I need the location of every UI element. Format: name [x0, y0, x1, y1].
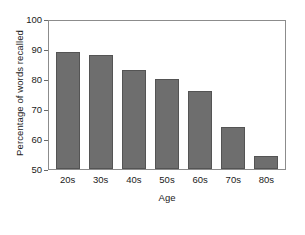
bar	[89, 55, 113, 169]
bar	[221, 127, 245, 169]
y-axis-tick-label: 70	[16, 105, 42, 115]
bar-slot	[249, 21, 282, 169]
x-axis-tick-label: 60s	[184, 174, 217, 188]
x-axis-tick-labels: 20s30s40s50s60s70s80s	[48, 174, 286, 188]
bar	[122, 70, 146, 169]
x-axis-title: Age	[48, 192, 286, 203]
y-axis-tick-labels: 5060708090100	[0, 0, 42, 235]
x-axis-tick-label: 40s	[117, 174, 150, 188]
plot-area	[48, 20, 286, 170]
y-axis-tick-mark	[44, 170, 48, 171]
bar-slot	[183, 21, 216, 169]
bar-slot	[151, 21, 184, 169]
y-axis-tick-label: 80	[16, 75, 42, 85]
bar-slot	[52, 21, 85, 169]
bar-series	[49, 21, 285, 169]
bar-slot	[216, 21, 249, 169]
y-axis-tick-label: 50	[16, 165, 42, 175]
bar-slot	[118, 21, 151, 169]
y-axis-tick-label: 90	[16, 45, 42, 55]
bar	[56, 52, 80, 169]
x-axis-tick-label: 30s	[84, 174, 117, 188]
bar	[254, 156, 278, 170]
bar	[155, 79, 179, 169]
x-axis-tick-label: 50s	[150, 174, 183, 188]
bar-slot	[85, 21, 118, 169]
bar	[188, 91, 212, 169]
y-axis-tick-label: 100	[16, 15, 42, 25]
y-axis-tick-label: 60	[16, 135, 42, 145]
x-axis-tick-label: 80s	[250, 174, 283, 188]
x-axis-tick-label: 70s	[217, 174, 250, 188]
x-axis-tick-label: 20s	[51, 174, 84, 188]
bar-chart-figure: Percentage of words recalled 50607080901…	[0, 0, 305, 235]
